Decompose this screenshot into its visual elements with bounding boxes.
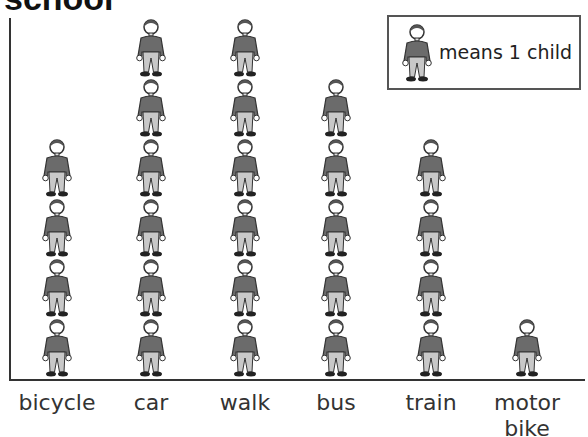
child-figure-icon <box>39 258 75 318</box>
child-figure-icon <box>227 18 263 78</box>
child-figure-icon <box>133 18 169 78</box>
column-train <box>409 138 453 378</box>
child-figure-icon <box>39 138 75 198</box>
child-figure-icon <box>39 318 75 378</box>
column-bicycle <box>35 138 79 378</box>
child-figure-icon <box>318 258 354 318</box>
child-figure-icon <box>413 318 449 378</box>
child-figure-icon <box>413 258 449 318</box>
child-figure-icon <box>509 318 545 378</box>
category-label-car: car <box>101 390 201 416</box>
column-bus <box>314 78 358 378</box>
category-label-bicycle: bicycle <box>7 390 107 416</box>
child-figure-icon <box>227 318 263 378</box>
legend-text: means 1 child <box>439 41 572 63</box>
child-figure-icon <box>133 318 169 378</box>
child-figure-icon <box>318 198 354 258</box>
child-figure-icon <box>227 138 263 198</box>
column-walk <box>223 18 267 378</box>
child-figure-icon <box>227 258 263 318</box>
child-figure-icon <box>399 23 435 83</box>
child-figure-icon <box>227 78 263 138</box>
child-figure-icon <box>39 198 75 258</box>
column-car <box>129 18 173 378</box>
column-motor-bike <box>505 318 549 378</box>
child-figure-icon <box>227 198 263 258</box>
child-figure-icon <box>133 138 169 198</box>
child-figure-icon <box>318 318 354 378</box>
x-axis <box>9 379 585 381</box>
category-label-train: train <box>381 390 481 416</box>
child-figure-icon <box>133 258 169 318</box>
child-figure-icon <box>318 78 354 138</box>
child-figure-icon <box>413 198 449 258</box>
legend: means 1 child <box>387 15 581 90</box>
child-figure-icon <box>413 138 449 198</box>
category-label-walk: walk <box>195 390 295 416</box>
child-figure-icon <box>133 198 169 258</box>
category-label-motor-bike: motor bike <box>477 390 577 437</box>
chart-title: school <box>4 0 114 18</box>
child-figure-icon <box>318 138 354 198</box>
child-figure-icon <box>133 78 169 138</box>
y-axis <box>9 18 11 380</box>
category-label-bus: bus <box>286 390 386 416</box>
